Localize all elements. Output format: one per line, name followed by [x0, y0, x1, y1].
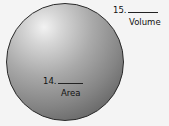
volume-caption: Volume [129, 18, 161, 27]
volume-label: 15. Volume [113, 6, 161, 26]
question-number: 15. [113, 6, 127, 15]
sphere-shape [6, 3, 124, 121]
area-caption: Area [61, 89, 83, 98]
area-label: 14. Area [43, 77, 83, 97]
question-number: 14. [43, 77, 57, 86]
answer-blank [128, 12, 158, 13]
answer-blank [58, 83, 83, 84]
